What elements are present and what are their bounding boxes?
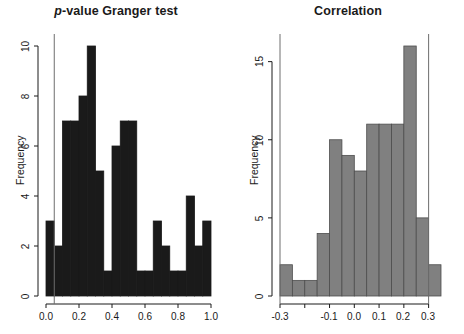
histogram-bar: [71, 121, 79, 296]
histogram-bar: [367, 124, 379, 296]
histogram-bar: [162, 246, 170, 296]
histogram-bar: [170, 271, 178, 296]
histogram-bar: [429, 265, 441, 296]
histogram-bar: [153, 221, 161, 296]
histogram-bar: [112, 146, 120, 296]
histogram-bar: [292, 280, 304, 296]
histogram-bar: [416, 218, 428, 296]
histogram-bar: [54, 246, 62, 296]
histogram-bar: [354, 171, 366, 296]
histogram-bar: [317, 234, 329, 297]
granger-plot-area: [0, 0, 232, 334]
histogram-bar: [178, 271, 186, 296]
histogram-bar: [79, 96, 87, 296]
histogram-bar: [129, 121, 137, 296]
histogram-bar: [46, 221, 54, 296]
histogram-bar: [104, 271, 112, 296]
histogram-bar: [137, 271, 145, 296]
histogram-bar: [391, 124, 403, 296]
figure-two-histograms: p-value Granger test Frequency 0 2 4 6 8…: [0, 0, 464, 334]
panel-correlation: Correlation Frequency 0 5 10 15 -0.3 -0.…: [232, 0, 464, 334]
histogram-bar: [87, 46, 95, 296]
histogram-bar: [195, 246, 203, 296]
correlation-plot-area: [232, 0, 464, 334]
histogram-bar: [120, 121, 128, 296]
histogram-bar: [145, 271, 153, 296]
histogram-bar: [379, 124, 391, 296]
histogram-bar: [203, 221, 211, 296]
histogram-bar: [186, 196, 194, 296]
histogram-bar: [96, 171, 104, 296]
histogram-bar: [305, 280, 317, 296]
histogram-bar: [342, 155, 354, 296]
histogram-bar: [404, 46, 416, 296]
panel-granger: p-value Granger test Frequency 0 2 4 6 8…: [0, 0, 232, 334]
histogram-bar: [280, 265, 292, 296]
histogram-bar: [330, 140, 342, 296]
histogram-bar: [63, 121, 71, 296]
